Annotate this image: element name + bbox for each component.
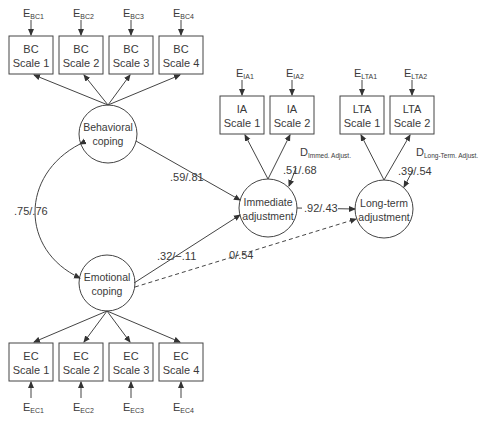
ec3-line2: Scale 3: [113, 364, 150, 376]
emotional-line2: coping: [92, 285, 123, 297]
error-bc2-sub: BC2: [80, 13, 94, 20]
ec3-line1: EC: [123, 350, 138, 362]
svg-text:ELTA1: ELTA1: [354, 67, 377, 80]
sem-diagram: BC Scale 1 BC Scale 2 BC Scale 3 BC Scal…: [0, 0, 482, 421]
svg-text:Scale 3: Scale 3: [113, 57, 150, 69]
svg-text:LTA: LTA: [403, 103, 422, 115]
path-ec-to-ia: [134, 215, 240, 283]
svg-text:Scale 1: Scale 1: [224, 117, 261, 129]
coef-ec-to-lta: 0/.54: [229, 249, 253, 261]
emotional-line1: Emotional: [84, 271, 131, 283]
emotional-coping-node: [79, 255, 135, 311]
svg-text:Scale 3: Scale 3: [113, 364, 150, 376]
bc3-line2: Scale 3: [113, 57, 150, 69]
svg-text:DImmed. Adjust.: DImmed. Adjust.: [300, 146, 351, 160]
svg-text:EBC4: EBC4: [173, 7, 194, 20]
error-ec4-sub: EC4: [180, 407, 194, 414]
ec4-line2: Scale 4: [163, 364, 200, 376]
coef-ia-to-lta: .92/.43: [304, 202, 338, 214]
error-ia1-main: E: [236, 67, 243, 79]
svg-text:Scale 2: Scale 2: [394, 117, 431, 129]
error-bc1-main: E: [23, 7, 30, 19]
lta2-line2: Scale 2: [394, 117, 431, 129]
error-bc3-sub: BC3: [130, 13, 144, 20]
ia1-line2: Scale 1: [224, 117, 261, 129]
bc4-line2: Scale 4: [163, 57, 200, 69]
error-bc3-main: E: [123, 7, 130, 19]
lta2-line1: LTA: [403, 103, 422, 115]
svg-text:Scale 1: Scale 1: [344, 117, 381, 129]
disturbance-longterm-sub: Long-Term. Adjust.: [424, 152, 478, 160]
ec1-line1: EC: [23, 350, 38, 362]
error-ec4-main: E: [173, 401, 180, 413]
disturbance-longterm-main: D: [416, 146, 424, 158]
svg-text:Long-term: Long-term: [360, 197, 408, 209]
ec2-line2: Scale 2: [63, 364, 100, 376]
loading-arrow-bc1: [34, 75, 108, 105]
svg-text:EEC1: EEC1: [23, 401, 44, 414]
svg-text:Scale 1: Scale 1: [13, 364, 50, 376]
svg-text:adjustment: adjustment: [242, 210, 293, 222]
svg-text:EBC1: EBC1: [23, 7, 44, 20]
error-bc4-sub: BC4: [180, 13, 194, 20]
immediate-line2: adjustment: [242, 210, 293, 222]
svg-text:coping: coping: [93, 135, 124, 147]
behavioral-line1: Behavioral: [83, 121, 133, 133]
error-lta1-sub: LTA1: [361, 73, 377, 80]
svg-text:Scale 2: Scale 2: [274, 117, 311, 129]
error-ia1-sub: IA1: [243, 73, 254, 80]
disturbance-immediate-main: D: [300, 146, 308, 158]
svg-text:ELTA2: ELTA2: [404, 67, 427, 80]
svg-text:coping: coping: [92, 285, 123, 297]
ia2-line2: Scale 2: [274, 117, 311, 129]
svg-text:BC: BC: [73, 43, 88, 55]
svg-text:adjustment: adjustment: [358, 211, 409, 223]
ia1-line1: IA: [237, 103, 248, 115]
svg-text:Immediate: Immediate: [243, 196, 292, 208]
longterm-line2: adjustment: [358, 211, 409, 223]
coef-ec-to-ia: .32/−.11: [157, 250, 196, 262]
error-lta1-main: E: [354, 67, 361, 79]
svg-text:BC: BC: [23, 43, 38, 55]
error-ec3-sub: EC3: [130, 407, 144, 414]
bc2-line1: BC: [73, 43, 88, 55]
error-ec2-sub: EC2: [80, 407, 94, 414]
svg-text:Scale 1: Scale 1: [13, 57, 50, 69]
svg-text:IA: IA: [287, 103, 298, 115]
bc1-line1: BC: [23, 43, 38, 55]
ia2-line1: IA: [287, 103, 298, 115]
error-bc2-main: E: [73, 7, 80, 19]
bc3-line1: BC: [123, 43, 138, 55]
behavioral-coping-node: [79, 105, 137, 163]
loading-arrow-ia1: [245, 135, 268, 179]
svg-text:EC: EC: [23, 350, 38, 362]
lta1-line1: LTA: [353, 103, 372, 115]
coef-bc-to-ia: .59/.81: [170, 171, 204, 183]
immediate-adjustment-node: [239, 179, 297, 237]
svg-text:Scale 2: Scale 2: [63, 364, 100, 376]
error-lta2-main: E: [404, 67, 411, 79]
immediate-line1: Immediate: [243, 196, 292, 208]
svg-text:Scale 4: Scale 4: [163, 364, 200, 376]
svg-text:BC: BC: [123, 43, 138, 55]
error-bc1-sub: BC1: [30, 13, 44, 20]
error-ia2-sub: IA2: [293, 73, 304, 80]
svg-text:EBC3: EBC3: [123, 7, 144, 20]
svg-text:BC: BC: [173, 43, 188, 55]
ec2-line1: EC: [73, 350, 88, 362]
error-bc4-main: E: [173, 7, 180, 19]
svg-text:EEC2: EEC2: [73, 401, 94, 414]
behavioral-line2: coping: [93, 135, 124, 147]
error-ia2-main: E: [286, 67, 293, 79]
svg-text:Behavioral: Behavioral: [83, 121, 133, 133]
lta1-line2: Scale 1: [344, 117, 381, 129]
svg-text:EEC4: EEC4: [173, 401, 194, 414]
bc2-line2: Scale 2: [63, 57, 100, 69]
disturbance-longterm-value: .39/.54: [398, 165, 432, 177]
svg-text:Emotional: Emotional: [84, 271, 131, 283]
longterm-adjustment-node: [355, 180, 413, 238]
error-ec3-main: E: [123, 401, 130, 413]
svg-text:EC: EC: [173, 350, 188, 362]
svg-text:EEC3: EEC3: [123, 401, 144, 414]
ec1-line2: Scale 1: [13, 364, 50, 376]
